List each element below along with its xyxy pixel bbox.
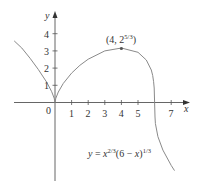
y-tick-label-4: 4	[44, 29, 49, 40]
max-point-label-base: (4, 2	[106, 34, 124, 46]
x-tick-label-5: 5	[135, 108, 140, 119]
x-axis-label: x	[183, 103, 189, 114]
equation-paren-open: (6 −	[116, 148, 135, 160]
origin-label: 0	[46, 105, 51, 116]
x-tick-label-4: 4	[119, 108, 124, 119]
max-point-label-exponent: 5/3	[124, 33, 132, 40]
equation-label: y = x2/3(6 − x)1/3	[87, 147, 151, 160]
y-tick-label-2: 2	[44, 63, 49, 74]
y-axis-label: y	[44, 10, 50, 21]
y-tick-label-3: 3	[44, 46, 49, 57]
max-point-label: (4, 25/3)	[106, 33, 136, 46]
y-tick-label-1: 1	[44, 80, 49, 91]
function-graph: 0 1 2 3 4 5 7 1 2 3 4 x y (4, 25/3) y = …	[0, 0, 198, 181]
y-axis-arrow-icon	[53, 11, 58, 18]
x-tick-label-1: 1	[69, 108, 74, 119]
x-tick-label-3: 3	[102, 108, 107, 119]
equation-exponent-2: 1/3	[143, 147, 151, 154]
equation-equals: =	[92, 148, 103, 159]
x-axis	[14, 100, 190, 105]
x-tick-label-7: 7	[169, 108, 174, 119]
max-point-label-close: )	[133, 34, 136, 46]
equation-exponent-1: 2/3	[108, 147, 116, 154]
x-tick-label-2: 2	[86, 108, 91, 119]
max-point-marker	[120, 47, 123, 50]
